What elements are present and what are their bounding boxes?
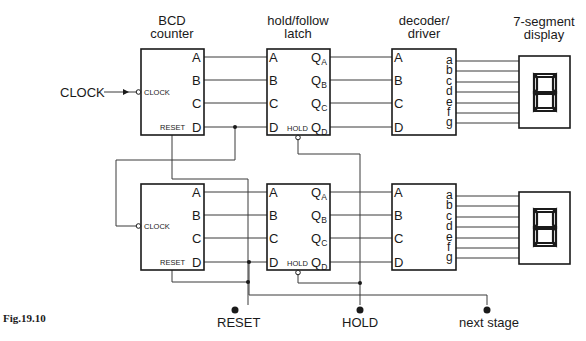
clock-pin-label: CLOCK xyxy=(144,88,170,97)
decoder-bottom: A B C D a b c d e f g xyxy=(392,184,456,270)
header-display: 7-segment display xyxy=(513,14,575,42)
reset-label: RESET xyxy=(217,315,260,330)
junction-dot xyxy=(358,281,362,285)
decoder-in-a: A xyxy=(394,50,403,65)
decoder-out-g: g xyxy=(446,115,453,129)
seven-segment-display-bottom xyxy=(519,192,570,264)
seven-segment-display-top xyxy=(519,56,570,128)
junction-dot xyxy=(247,260,251,264)
clock-bubble-icon xyxy=(136,224,141,229)
counter-out-b: B xyxy=(192,73,201,88)
counter-out-c: C xyxy=(192,231,201,246)
clock-pin-label: CLOCK xyxy=(144,222,170,231)
latch-in-c: C xyxy=(269,96,278,111)
header-latch: hold/follow latch xyxy=(267,13,329,41)
latch-in-d: D xyxy=(269,120,278,135)
counter-out-d: D xyxy=(192,120,201,135)
top-stage: CLOCK RESET A B C D A B C D QA QB QC QD … xyxy=(136,49,570,140)
counter-out-b: B xyxy=(192,208,201,223)
header-counter: BCD counter xyxy=(150,13,194,41)
bottom-stage: CLOCK RESET A B C D A B C D QA QB QC QD … xyxy=(136,184,570,275)
counter-out-a: A xyxy=(192,185,201,200)
header-display-line2: display xyxy=(524,27,565,42)
header-decoder: decoder/ driver xyxy=(399,13,450,41)
counter-out-d: D xyxy=(192,255,201,270)
bcd-counter-display-diagram: BCD counter hold/follow latch decoder/ d… xyxy=(0,0,586,341)
latch-bottom: A B C D QA QB QC QD HOLD xyxy=(267,184,330,275)
header-latch-line2: latch xyxy=(284,26,311,41)
figure-caption: Fig.19.10 xyxy=(3,312,46,324)
hold-pin-label: HOLD xyxy=(287,124,308,133)
decoder-in-c: C xyxy=(394,231,403,246)
hold-label: HOLD xyxy=(342,315,378,330)
hold-pin-label: HOLD xyxy=(287,259,308,268)
latch-in-b: B xyxy=(269,208,278,223)
clock-input-label: CLOCK xyxy=(60,85,105,100)
hold-bubble-icon xyxy=(296,270,301,275)
clock-bubble-icon xyxy=(136,90,141,95)
next-stage-label: next stage xyxy=(459,315,519,330)
bottom-hold-wire xyxy=(298,274,360,283)
decoder-in-b: B xyxy=(394,73,403,88)
junction-dot xyxy=(246,280,250,284)
header-decoder-line2: driver xyxy=(408,26,441,41)
hold-terminal xyxy=(357,307,364,314)
decoder-in-c: C xyxy=(394,96,403,111)
clock-arrow-icon xyxy=(123,89,129,95)
header-counter-line2: counter xyxy=(150,26,194,41)
latch-in-d: D xyxy=(269,255,278,270)
decoder-in-b: B xyxy=(394,208,403,223)
top-hold-wire xyxy=(298,139,360,154)
reset-terminal xyxy=(232,307,239,314)
decoder-in-a: A xyxy=(394,185,403,200)
latch-in-b: B xyxy=(269,73,278,88)
hold-bubble-icon xyxy=(296,135,301,140)
decoder-top: A B C D a b c d e f g xyxy=(392,49,456,135)
counter-out-c: C xyxy=(192,96,201,111)
bcd-counter-bottom: CLOCK RESET A B C D xyxy=(136,184,204,270)
reset-pin-label: RESET xyxy=(160,123,185,132)
bottom-reset-wire xyxy=(172,270,248,282)
latch-in-a: A xyxy=(269,185,278,200)
reset-pin-label: RESET xyxy=(160,258,185,267)
junction-dot xyxy=(233,125,237,129)
decoder-in-d: D xyxy=(394,120,403,135)
bcd-counter-top: CLOCK RESET A B C D xyxy=(136,49,204,135)
decoder-in-d: D xyxy=(394,255,403,270)
decoder-out-g: g xyxy=(446,250,453,264)
latch-in-c: C xyxy=(269,231,278,246)
latch-in-a: A xyxy=(269,50,278,65)
latch-top: A B C D QA QB QC QD HOLD xyxy=(267,49,330,140)
counter-out-a: A xyxy=(192,50,201,65)
next-stage-terminal xyxy=(484,307,491,314)
top-reset-wire xyxy=(172,135,248,179)
